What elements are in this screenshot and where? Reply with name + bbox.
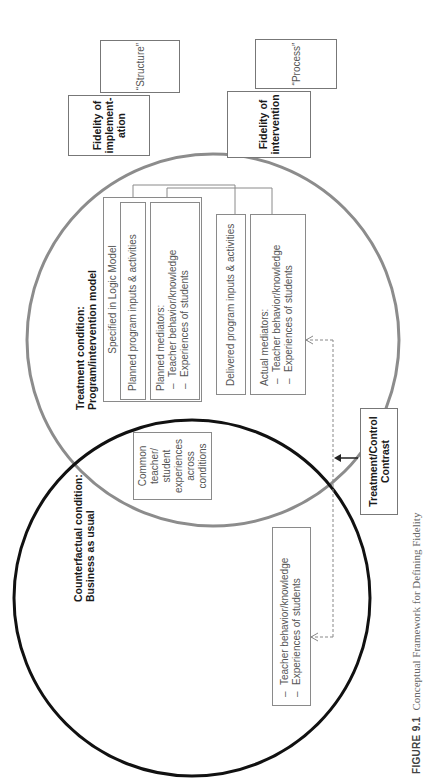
counterfactual-item: Experiences of students (291, 534, 303, 699)
common-line: teacher/ (149, 448, 161, 484)
diagram-shapes (0, 0, 425, 780)
treatment-title-line2: Program/intervention model (86, 210, 98, 410)
contrast-line1: Treatment/Control (367, 416, 379, 506)
actual-mediator-item: Experiences of students (283, 223, 295, 386)
fidelity-implementation-box: Fidelity of implement- ation (68, 95, 150, 156)
counterfactual-list-box: Teacher behavior/knowledge Experiences o… (272, 527, 311, 706)
logic-model-header: Specified in Logic Model (107, 198, 119, 401)
figure-caption-text: Conceptual Framework for Defining Fideli… (410, 513, 422, 711)
process-label: “Process” (291, 43, 302, 86)
contrast-line2: Contrast (379, 440, 391, 483)
actual-mediator-item: Teacher behavior/knowledge (271, 223, 283, 386)
common-line: student (161, 450, 173, 483)
actual-mediators-box: Actual mediators: Teacher behavior/knowl… (250, 214, 306, 395)
diagram-canvas: Fidelity of implement- ation “Structure”… (0, 0, 425, 780)
fidelity-intervention-box: Fidelity of intervention (227, 91, 311, 158)
common-line: Common (137, 446, 149, 487)
figure-label: FIGURE 9.1 (411, 717, 422, 774)
contrast-box: Treatment/Control Contrast (360, 408, 398, 515)
planned-mediators-title: Planned mediators: (155, 211, 167, 391)
common-experiences-box: Common teacher/ student experiences acro… (133, 432, 212, 500)
common-line: conditions (197, 443, 209, 488)
common-line: experiences (173, 439, 185, 493)
counterfactual-item: Teacher behavior/knowledge (279, 534, 291, 699)
fidelity-intervention-line1: Fidelity of (257, 100, 269, 150)
actual-mediators-title: Actual mediators: (259, 223, 271, 386)
planned-mediator-item: Experiences of students (179, 211, 191, 391)
structure-label: “Structure” (135, 43, 146, 90)
fidelity-implementation-line2: implement- (103, 98, 115, 154)
common-line: across (185, 451, 197, 480)
delivered-inputs-text: Delivered program inputs & activities (225, 224, 236, 386)
delivered-inputs-box: Delivered program inputs & activities (216, 214, 246, 395)
treatment-title: Treatment condition: Program/interventio… (74, 210, 98, 410)
figure-caption: FIGURE 9.1Conceptual Framework for Defin… (410, 513, 422, 774)
treatment-title-line1: Treatment condition: (74, 210, 86, 410)
contrast-arrowhead (334, 454, 341, 462)
planned-inputs-box: Planned program inputs & activities (120, 202, 146, 400)
counterfactual-title-line2: Business as usual (84, 442, 96, 602)
structure-box: “Structure” (100, 40, 180, 93)
process-box: “Process” (255, 39, 337, 89)
fidelity-intervention-line2: intervention (269, 94, 281, 154)
counterfactual-title-line1: Counterfactual condition: (72, 442, 84, 602)
counterfactual-title: Counterfactual condition: Business as us… (72, 442, 96, 602)
planned-mediator-item: Teacher behavior/knowledge (167, 211, 179, 391)
planned-mediators-box: Planned mediators: Teacher behavior/know… (150, 202, 200, 400)
fidelity-implementation-line1: Fidelity of (91, 101, 103, 151)
planned-inputs-text: Planned program inputs & activities (127, 234, 138, 391)
fidelity-implementation-line3: ation (115, 113, 127, 138)
